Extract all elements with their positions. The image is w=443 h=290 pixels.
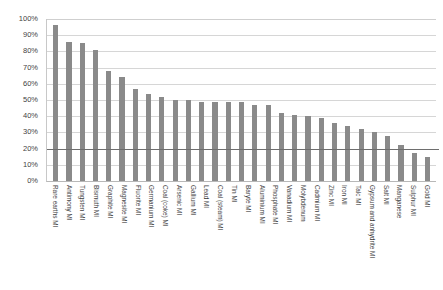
bar bbox=[398, 145, 403, 181]
x-axis-tick: Molybdenum bbox=[296, 183, 310, 288]
x-axis-tick: Bismuth MI bbox=[89, 183, 103, 288]
x-axis-tick: Tin MI bbox=[227, 183, 241, 288]
x-axis-tick: Germanium MI bbox=[144, 183, 158, 288]
x-axis-tick-label: Gold MI bbox=[424, 185, 430, 207]
bar bbox=[226, 102, 231, 181]
x-axis-tick-label: Fluorite MI bbox=[135, 185, 141, 215]
x-axis-tick: Arsenic MI bbox=[172, 183, 186, 288]
bar-slot bbox=[235, 19, 248, 181]
x-axis-tick-label: Coal (steam) MI bbox=[217, 185, 223, 230]
bar bbox=[186, 100, 191, 181]
y-axis-tick-label: 100% bbox=[19, 15, 38, 23]
bar bbox=[332, 123, 337, 181]
bar-slot bbox=[288, 19, 301, 181]
x-axis-tick: Iron MI bbox=[337, 183, 351, 288]
bar bbox=[345, 126, 350, 181]
bar-slot bbox=[421, 19, 434, 181]
bar bbox=[266, 105, 271, 181]
bar-slot bbox=[89, 19, 102, 181]
x-axis-tick: Sulphur MI bbox=[406, 183, 420, 288]
x-axis-tick-label: Germanium MI bbox=[148, 185, 154, 227]
bar-slot bbox=[76, 19, 89, 181]
x-axis-tick: Zinc MI bbox=[324, 183, 338, 288]
bar-series bbox=[47, 19, 436, 181]
bar-slot bbox=[195, 19, 208, 181]
x-axis-tick: Salt MI bbox=[379, 183, 393, 288]
x-axis-tick-label: Magnesite MI bbox=[121, 185, 127, 223]
bar bbox=[239, 102, 244, 181]
bar-slot bbox=[354, 19, 367, 181]
bar bbox=[359, 129, 364, 181]
x-axis-tick: Phosphate MI bbox=[269, 183, 283, 288]
bar-slot bbox=[275, 19, 288, 181]
y-axis-tick-label: 10% bbox=[23, 161, 38, 169]
x-axis-tick: Lead MI bbox=[200, 183, 214, 288]
threshold-line bbox=[47, 149, 439, 150]
x-axis-tick: Aluminium MI bbox=[255, 183, 269, 288]
x-axis-tick-label: Manganese bbox=[396, 185, 402, 218]
x-axis-tick-label: Iron MI bbox=[341, 185, 347, 205]
bar-slot bbox=[169, 19, 182, 181]
bar bbox=[252, 105, 257, 181]
x-axis-tick: Manganese bbox=[393, 183, 407, 288]
bar-slot bbox=[182, 19, 195, 181]
bar-slot bbox=[408, 19, 421, 181]
x-axis-tick: Cadmium MI bbox=[310, 183, 324, 288]
bar bbox=[372, 132, 377, 181]
bar bbox=[93, 50, 98, 181]
bar-slot bbox=[315, 19, 328, 181]
x-axis-tick-label: Sulphur MI bbox=[410, 185, 416, 216]
bar-slot bbox=[62, 19, 75, 181]
bar-slot bbox=[49, 19, 62, 181]
bar-slot bbox=[262, 19, 275, 181]
y-axis-tick-label: 0% bbox=[27, 177, 38, 185]
bar bbox=[199, 102, 204, 181]
y-axis: 0%10%20%30%40%50%60%70%80%90%100% bbox=[0, 19, 42, 182]
bar bbox=[412, 153, 417, 181]
bar bbox=[80, 43, 85, 181]
y-axis-tick-label: 80% bbox=[23, 48, 38, 56]
bar-slot bbox=[328, 19, 341, 181]
plot-area bbox=[46, 19, 436, 182]
bar bbox=[119, 77, 124, 181]
x-axis-tick-label: Aluminium MI bbox=[259, 185, 265, 224]
x-axis-tick-label: Phosphate MI bbox=[272, 185, 278, 224]
x-axis-tick: Graphite MI bbox=[103, 183, 117, 288]
bar bbox=[53, 25, 58, 181]
x-axis-tick-label: Coal (coke) MI bbox=[162, 185, 168, 227]
bar-chart: 0%10%20%30%40%50%60%70%80%90%100% Rare e… bbox=[0, 0, 443, 290]
bar-slot bbox=[129, 19, 142, 181]
bar bbox=[425, 157, 430, 181]
y-axis-tick-label: 60% bbox=[23, 80, 38, 88]
x-axis-tick-label: Baryte MI bbox=[245, 185, 251, 212]
x-axis: Rare earths MIAntimony MITungsten MIBism… bbox=[46, 183, 436, 288]
y-axis-tick-label: 20% bbox=[23, 145, 38, 153]
bar bbox=[279, 113, 284, 181]
bar-slot bbox=[301, 19, 314, 181]
x-axis-tick-label: Gallium MI bbox=[190, 185, 196, 216]
bar-slot bbox=[222, 19, 235, 181]
bar bbox=[106, 71, 111, 181]
x-axis-tick-label: Tin MI bbox=[231, 185, 237, 203]
bar bbox=[159, 97, 164, 181]
x-axis-tick-label: Talc MI bbox=[355, 185, 361, 205]
y-axis-tick-label: 70% bbox=[23, 64, 38, 72]
bar bbox=[146, 94, 151, 181]
x-axis-tick-label: Gypsum and anhydrite MI bbox=[369, 185, 375, 258]
bar bbox=[133, 89, 138, 181]
bar-slot bbox=[115, 19, 128, 181]
bar-slot bbox=[142, 19, 155, 181]
x-axis-tick: Coal (coke) MI bbox=[158, 183, 172, 288]
bar-slot bbox=[368, 19, 381, 181]
x-axis-tick: Tungsten MI bbox=[76, 183, 90, 288]
x-axis-tick: Gold MI bbox=[420, 183, 434, 288]
x-axis-tick: Fluorite MI bbox=[131, 183, 145, 288]
x-axis-tick: Rare earths MI bbox=[48, 183, 62, 288]
bar bbox=[385, 136, 390, 181]
x-axis-tick-label: Vanadium MI bbox=[286, 185, 292, 222]
bar-slot bbox=[341, 19, 354, 181]
bar-slot bbox=[102, 19, 115, 181]
x-axis-tick: Magnesite MI bbox=[117, 183, 131, 288]
bar-slot bbox=[248, 19, 261, 181]
x-axis-tick-label: Molybdenum bbox=[300, 185, 306, 222]
